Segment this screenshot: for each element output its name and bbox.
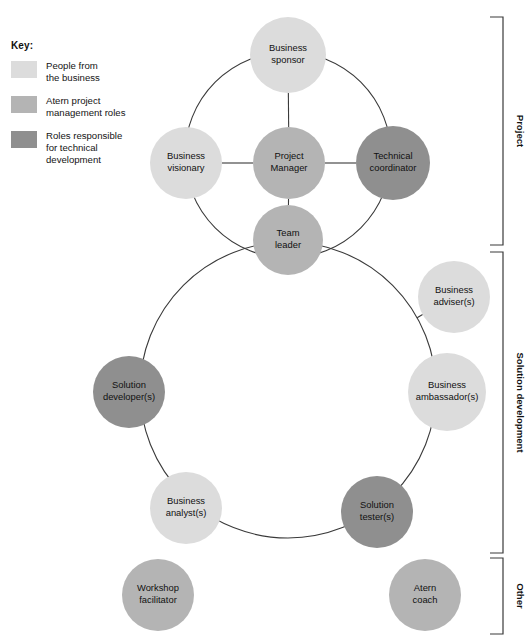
nodes-layer: BusinesssponsorBusinessvisionaryProjectM…	[93, 17, 490, 631]
bracket-label: Solution development	[515, 352, 526, 453]
node-business-visionary[interactable]: Businessvisionary	[150, 127, 222, 199]
bracket-project: Project	[490, 17, 526, 245]
node-label: Solutiontester(s)	[360, 500, 394, 522]
team-model-svg: BusinesssponsorBusinessvisionaryProjectM…	[0, 0, 531, 642]
bracket-shape	[490, 17, 503, 245]
node-business-adviser[interactable]: Businessadviser(s)	[418, 261, 490, 333]
node-business-sponsor[interactable]: Businesssponsor	[250, 17, 326, 93]
bracket-label: Project	[515, 115, 526, 148]
bracket-label: Other	[515, 583, 526, 609]
node-technical-coordinator[interactable]: Technicalcoordinator	[356, 126, 430, 200]
node-label: Businessadviser(s)	[433, 285, 474, 307]
bracket-solution-development: Solution development	[490, 252, 526, 553]
node-team-leader[interactable]: Teamleader	[253, 205, 323, 275]
brackets-layer: ProjectSolution developmentOther	[490, 17, 526, 634]
node-business-ambassador[interactable]: Businessambassador(s)	[408, 353, 486, 431]
node-label: Teamleader	[275, 228, 301, 250]
node-solution-developer[interactable]: Solutiondeveloper(s)	[93, 356, 165, 428]
bracket-shape	[490, 252, 503, 553]
node-label: Businesssponsor	[269, 43, 307, 65]
node-label: Technicalcoordinator	[370, 151, 417, 173]
bracket-shape	[490, 558, 503, 634]
node-project-manager[interactable]: ProjectManager	[253, 127, 325, 199]
node-label: ProjectManager	[270, 151, 307, 173]
node-label: Businessvisionary	[167, 151, 205, 173]
node-solution-tester[interactable]: Solutiontester(s)	[341, 476, 413, 548]
connector-ring-adviser	[417, 315, 422, 318]
node-atern-coach[interactable]: Aterncoach	[389, 559, 461, 631]
diagram-canvas: Key: People fromthe businessAtern projec…	[0, 0, 531, 642]
node-label: Businessanalyst(s)	[166, 496, 207, 518]
node-label: Workshopfacilitator	[137, 583, 179, 605]
node-workshop-facilitator[interactable]: Workshopfacilitator	[122, 559, 194, 631]
node-label: Aterncoach	[412, 583, 437, 605]
rings-layer	[140, 52, 436, 538]
bracket-other: Other	[490, 558, 526, 634]
node-business-analyst[interactable]: Businessanalyst(s)	[150, 472, 222, 544]
